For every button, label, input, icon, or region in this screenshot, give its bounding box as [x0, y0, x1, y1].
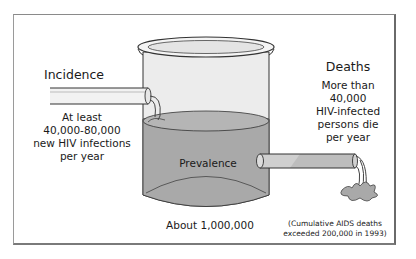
incidence-line: new HIV infections: [30, 137, 134, 150]
deaths-line: persons die: [308, 118, 388, 131]
deaths-line: More than: [308, 79, 388, 92]
deaths-line: 40,000: [308, 92, 388, 105]
incidence-line: per year: [52, 150, 112, 163]
deaths-line: per year: [308, 131, 388, 144]
deaths-line: HIV-infected: [308, 105, 388, 118]
incidence-line: 40,000-80,000: [40, 124, 124, 137]
note-line: (Cumulative AIDS deaths: [280, 219, 390, 229]
deaths-pipe: [257, 154, 378, 201]
incidence-title: Incidence: [44, 68, 104, 81]
deaths-title: Deaths: [318, 60, 378, 73]
beaker: [138, 37, 274, 207]
prevalence-label: Prevalence: [176, 157, 240, 170]
incidence-line: At least: [52, 111, 112, 124]
note-line: exceeded 200,000 in 1993): [278, 229, 392, 239]
prevalence-caption: About 1,000,000: [160, 219, 260, 232]
